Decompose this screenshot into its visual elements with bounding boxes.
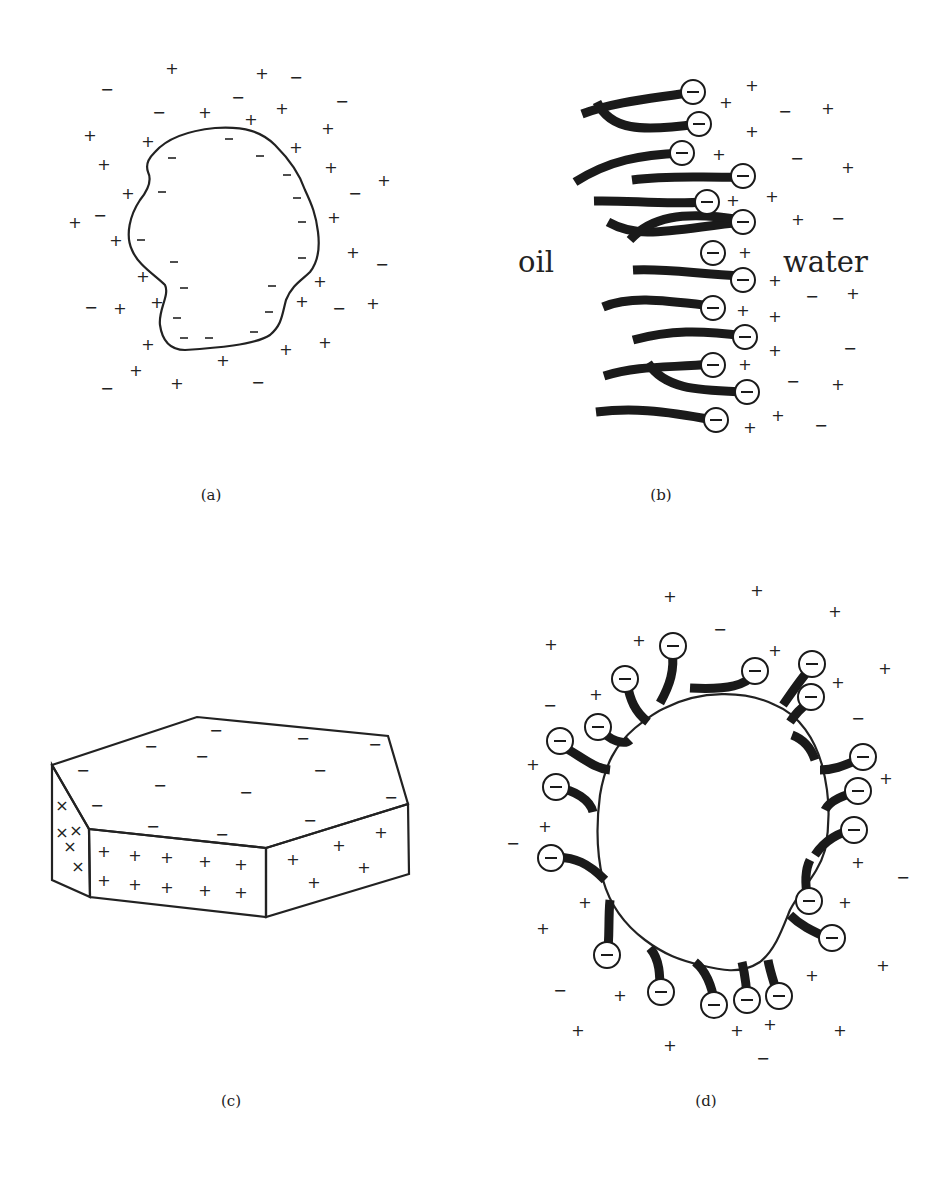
svg-text:+: + (366, 294, 379, 313)
svg-text:+: + (750, 581, 763, 600)
svg-text:+: + (571, 1021, 584, 1040)
svg-text:+: + (286, 850, 299, 869)
svg-text:−: − (100, 379, 113, 398)
svg-text:−: − (506, 834, 519, 853)
svg-text:×: × (55, 796, 68, 815)
svg-text:+: + (141, 132, 154, 151)
svg-text:−: − (756, 1049, 769, 1068)
svg-text:+: + (216, 351, 229, 370)
svg-text:−: − (313, 761, 326, 780)
svg-text:+: + (129, 361, 142, 380)
svg-text:+: + (275, 99, 288, 118)
svg-text:+: + (663, 1036, 676, 1055)
svg-text:+: + (538, 817, 551, 836)
svg-text:+: + (768, 271, 781, 290)
svg-text:−: − (553, 981, 566, 1000)
svg-text:−: − (231, 88, 244, 107)
svg-text:×: × (71, 857, 84, 876)
svg-text:−: − (831, 209, 844, 228)
panel-a: ++− −−− −++ +++ +++ +++ −+− +++ −++ −++ … (68, 59, 390, 505)
svg-text:+: + (613, 986, 626, 1005)
svg-text:+: + (295, 292, 308, 311)
svg-text:+: + (846, 284, 859, 303)
svg-text:+: + (736, 301, 749, 320)
svg-text:−: − (303, 811, 316, 830)
svg-text:+: + (878, 659, 891, 678)
svg-text:+: + (165, 59, 178, 78)
svg-text:+: + (244, 110, 257, 129)
svg-text:+: + (377, 171, 390, 190)
svg-text:+: + (743, 418, 756, 437)
svg-text:−: − (90, 796, 103, 815)
svg-text:−: − (76, 761, 89, 780)
svg-text:−: − (335, 92, 348, 111)
svg-text:+: + (255, 64, 268, 83)
svg-text:−: − (786, 372, 799, 391)
svg-text:−: − (843, 339, 856, 358)
svg-text:−: − (84, 298, 97, 317)
svg-text:+: + (828, 602, 841, 621)
svg-text:+: + (136, 267, 149, 286)
svg-text:+: + (160, 848, 173, 867)
svg-text:−: − (851, 709, 864, 728)
svg-text:+: + (526, 755, 539, 774)
svg-text:+: + (97, 842, 110, 861)
svg-text:+: + (833, 1021, 846, 1040)
svg-text:+: + (141, 335, 154, 354)
svg-text:+: + (876, 956, 889, 975)
svg-text:+: + (738, 243, 751, 262)
face-charges-c: −−− −−− −−− −−− −− (76, 721, 397, 844)
svg-text:−: − (289, 68, 302, 87)
svg-text:+: + (97, 155, 110, 174)
svg-text:+: + (234, 883, 247, 902)
svg-text:−: − (375, 255, 388, 274)
svg-text:+: + (738, 355, 751, 374)
svg-text:×: × (63, 837, 76, 856)
svg-text:+: + (831, 673, 844, 692)
svg-text:+: + (763, 1015, 776, 1034)
svg-text:−: − (215, 825, 228, 844)
svg-text:+: + (768, 341, 781, 360)
svg-text:+: + (321, 119, 334, 138)
svg-text:−: − (790, 149, 803, 168)
svg-text:+: + (150, 293, 163, 312)
svg-text:−: − (146, 817, 159, 836)
svg-text:+: + (113, 299, 126, 318)
svg-text:+: + (121, 184, 134, 203)
svg-text:+: + (791, 210, 804, 229)
svg-text:+: + (128, 846, 141, 865)
svg-text:+: + (841, 158, 854, 177)
svg-text:+: + (712, 145, 725, 164)
svg-text:+: + (198, 103, 211, 122)
svg-text:+: + (318, 333, 331, 352)
panel-c: −−− −−− −−− −−− −− +++ ++ +++ ++ +++ ++ … (52, 717, 409, 1110)
svg-text:−: − (153, 776, 166, 795)
svg-text:+: + (578, 893, 591, 912)
svg-text:−: − (93, 206, 106, 225)
svg-text:+: + (332, 836, 345, 855)
particle-a (129, 128, 319, 350)
svg-text:+: + (374, 823, 387, 842)
svg-text:−: − (348, 184, 361, 203)
svg-text:+: + (719, 93, 732, 112)
edge-charges-c: +++ ++ +++ ++ +++ ++ ××× ×× (55, 796, 387, 902)
svg-text:−: − (713, 620, 726, 639)
svg-text:+: + (851, 853, 864, 872)
svg-text:+: + (838, 893, 851, 912)
svg-text:−: − (778, 102, 791, 121)
svg-text:+: + (198, 852, 211, 871)
svg-text:+: + (536, 919, 549, 938)
svg-text:−: − (896, 868, 909, 887)
svg-text:−: − (805, 287, 818, 306)
svg-text:+: + (170, 374, 183, 393)
svg-text:−: − (251, 373, 264, 392)
svg-text:+: + (805, 966, 818, 985)
svg-text:+: + (632, 631, 645, 650)
panel-b: oil water (518, 76, 868, 505)
svg-text:+: + (544, 635, 557, 654)
svg-text:+: + (663, 587, 676, 606)
svg-text:+: + (109, 231, 122, 250)
svg-text:+: + (289, 138, 302, 157)
svg-text:−: − (384, 788, 397, 807)
svg-text:−: − (368, 735, 381, 754)
